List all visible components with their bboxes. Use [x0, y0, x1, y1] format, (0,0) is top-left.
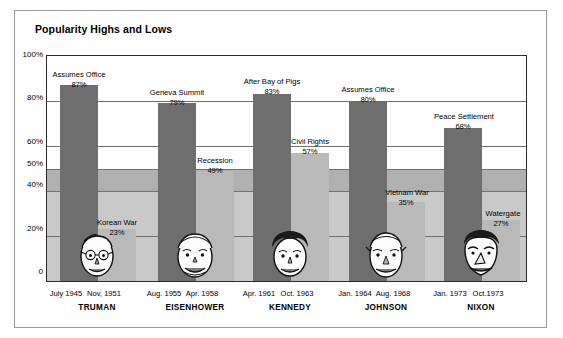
bar-label-johnson-low: Vietnam War	[382, 188, 432, 197]
x-category-johnson: JOHNSON	[348, 303, 424, 313]
kennedy-caricature	[265, 227, 315, 281]
bar-label-nixon-low: Watergate	[479, 209, 527, 218]
bar-label-nixon-high: Peace Settlement	[425, 112, 503, 121]
bar-value-kennedy-low: 57%	[291, 147, 329, 156]
bar-value-eisenhower-low: 49%	[196, 166, 234, 175]
y-tick-label-0: 0	[39, 268, 43, 276]
bar-value-eisenhower-high: 79%	[158, 98, 196, 107]
y-tick-label-40: 40%	[27, 181, 43, 189]
y-tick-label-100: 100%	[23, 51, 43, 59]
bar-label-kennedy-low: Civil Rights	[288, 137, 332, 146]
x-category-kennedy: KENNEDY	[252, 303, 328, 313]
chart-figure: Popularity Highs and Lows 100% 80% 60% 5…	[14, 10, 547, 328]
x-category-eisenhower: EISENHOWER	[157, 303, 233, 313]
bar-value-johnson-low: 35%	[387, 198, 425, 207]
x-date-nixon-low: Oct.1973	[462, 289, 514, 298]
y-tick-label-50: 50%	[27, 160, 43, 168]
y-tick-label-60: 60%	[27, 138, 43, 146]
x-date-kennedy-low: Oct. 1963	[271, 289, 323, 298]
x-category-nixon: NIXON	[443, 303, 519, 313]
y-tick-label-20: 20%	[27, 225, 43, 233]
eisenhower-caricature	[170, 229, 220, 281]
x-category-truman: TRUMAN	[59, 303, 135, 313]
bar-label-johnson-high: Assumes Office	[332, 85, 404, 94]
x-date-eisenhower-low: Apr. 1958	[176, 289, 228, 298]
truman-caricature	[72, 229, 122, 281]
bar-value-kennedy-high: 83%	[253, 87, 291, 96]
bar-value-johnson-high: 80%	[349, 95, 387, 104]
y-axis: 100% 80% 60% 50% 40% 20% 0	[15, 51, 43, 286]
bar-label-truman-low: Korean War	[89, 218, 145, 227]
y-tick-label-80: 80%	[27, 94, 43, 102]
plot-area: Assumes Office 87% Korean War 23% Geneva…	[46, 55, 527, 282]
x-date-johnson-low: Aug. 1968	[367, 289, 419, 298]
page-title: Popularity Highs and Lows	[35, 23, 172, 35]
bar-value-truman-high: 87%	[60, 80, 98, 89]
bar-label-eisenhower-high: Geneva Summit	[143, 88, 211, 97]
bar-label-kennedy-high: After Bay of Pigs	[232, 77, 312, 86]
bar-value-nixon-high: 68%	[444, 122, 482, 131]
bar-label-truman-high: Assumes Office	[46, 70, 115, 79]
johnson-caricature	[361, 227, 411, 281]
x-date-truman-low: Nov, 1951	[78, 289, 130, 298]
nixon-caricature	[455, 227, 507, 281]
bar-label-eisenhower-low: Recession	[192, 156, 238, 165]
